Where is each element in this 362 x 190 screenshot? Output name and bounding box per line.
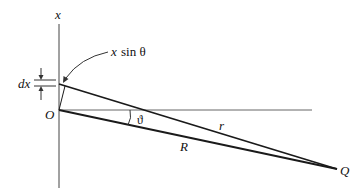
dx-top-arrowhead-icon bbox=[39, 75, 44, 80]
ray-R bbox=[59, 110, 337, 169]
diffraction-geometry-diagram: x O dx x sin θ ϑ r R Q bbox=[0, 0, 362, 190]
perpendicular-segment bbox=[59, 86, 65, 110]
angle-arc bbox=[128, 110, 131, 125]
path-difference-x-label: x bbox=[110, 44, 117, 59]
ray-r bbox=[59, 84, 337, 169]
origin-label: O bbox=[45, 107, 55, 122]
path-difference-sin-label: sin θ bbox=[121, 44, 146, 59]
dx-bottom-arrowhead-icon bbox=[39, 86, 44, 91]
pointer-arrowhead-icon bbox=[63, 76, 69, 83]
R-label: R bbox=[179, 139, 188, 154]
dx-label: dx bbox=[18, 76, 31, 91]
pointer-curve bbox=[66, 52, 108, 78]
angle-theta-label: ϑ bbox=[137, 113, 143, 127]
point-Q-label: Q bbox=[340, 163, 350, 178]
x-axis-label: x bbox=[54, 7, 61, 22]
r-label: r bbox=[219, 118, 225, 133]
